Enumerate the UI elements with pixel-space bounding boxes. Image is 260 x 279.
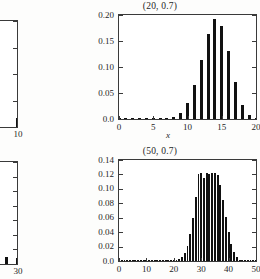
bar [189, 234, 191, 261]
panel-title-bottom-right: (50, 0.7) [68, 146, 252, 156]
bar [239, 260, 241, 261]
bar [148, 260, 150, 261]
y-tick-mark [252, 174, 256, 175]
y-tick-mark [119, 160, 123, 161]
bar [206, 173, 208, 261]
x-tick-label: 40 [214, 265, 244, 274]
bar [198, 174, 200, 261]
bar [213, 19, 216, 119]
bar [211, 173, 213, 261]
y-tick-mark [13, 48, 17, 49]
bar [129, 260, 131, 261]
y-tick-mark [119, 232, 123, 233]
bar [154, 260, 156, 261]
bar [195, 197, 197, 261]
xtick-label-bottom-left-30: 30 [2, 267, 34, 276]
bar [159, 118, 162, 119]
x-tick-mark [229, 258, 230, 262]
x-tick-mark [153, 116, 154, 120]
y-tick-label: 0.04 [78, 228, 114, 237]
plot-area-bottom-right [118, 159, 257, 262]
y-tick-mark [252, 15, 256, 16]
x-tick-mark [119, 116, 120, 120]
panel-bottom-right: (50, 0.7) 0.00.020.040.060.080.100.120.1… [76, 145, 260, 279]
y-tick-mark [13, 220, 17, 221]
bar [241, 105, 244, 119]
bar [140, 260, 142, 261]
panel-top-right: (20, 0.7) 0.00.050.100.150.2005101520 x [76, 0, 260, 140]
bars-bottom-right [119, 160, 256, 261]
y-tick-label: 0.10 [78, 184, 114, 193]
bar [217, 175, 219, 261]
x-tick-label: 0 [104, 265, 134, 274]
y-tick-mark [13, 249, 17, 250]
x-tick-label: 10 [131, 265, 161, 274]
y-tick-label: 0.08 [78, 199, 114, 208]
x-tick-mark [188, 116, 189, 120]
x-tick-label: 20 [241, 123, 260, 132]
y-tick-mark [119, 67, 123, 68]
bar [167, 260, 169, 261]
bar [222, 200, 224, 261]
bar [193, 85, 196, 119]
bar [200, 173, 202, 261]
bar [145, 118, 148, 119]
y-tick-mark [252, 247, 256, 248]
bar [234, 82, 237, 119]
bar [208, 174, 210, 261]
y-tick-mark [119, 15, 123, 16]
y-tick-mark [13, 206, 17, 207]
x-tick-label: 30 [186, 265, 216, 274]
y-tick-mark [252, 67, 256, 68]
y-tick-label: 0.14 [78, 156, 114, 165]
bar [207, 34, 210, 119]
bar [233, 252, 235, 261]
bar [227, 51, 230, 119]
y-tick-label: 0.10 [78, 63, 114, 72]
panel-top-left-clipped: 10 [0, 8, 80, 138]
y-tick-mark [119, 174, 123, 175]
y-tick-label: 0.15 [78, 37, 114, 46]
bar [203, 178, 205, 261]
bars-top-right [119, 15, 256, 119]
y-tick-label: 0.12 [78, 170, 114, 179]
bar [244, 260, 246, 261]
x-tick-mark [174, 258, 175, 262]
bar [200, 60, 203, 119]
y-tick-label: 0.02 [78, 242, 114, 251]
x-tick-mark [17, 261, 18, 265]
y-tick-mark [252, 160, 256, 161]
y-tick-mark [119, 93, 123, 94]
bar [124, 118, 127, 119]
y-tick-label: 0.06 [78, 213, 114, 222]
y-tick-mark [119, 41, 123, 42]
panel-title-top-right: (20, 0.7) [68, 1, 252, 11]
figure-canvas: 10 (20, 0.7) 0.00.050.100.150.2005101520… [0, 0, 260, 279]
bar [184, 253, 186, 261]
bar [143, 260, 145, 261]
y-tick-mark [13, 74, 17, 75]
bar [124, 260, 126, 261]
x-tick-mark [256, 258, 257, 262]
x-tick-label: 50 [241, 265, 260, 274]
bar [176, 260, 178, 261]
y-tick-mark [13, 191, 17, 192]
y-tick-mark [252, 203, 256, 204]
bar [192, 218, 194, 261]
bar [241, 260, 243, 261]
y-tick-mark [13, 21, 17, 22]
bar [156, 260, 158, 261]
y-tick-label: 0.05 [78, 89, 114, 98]
bar [151, 260, 153, 261]
x-tick-mark [17, 124, 18, 128]
y-tick-mark [252, 218, 256, 219]
y-tick-mark [13, 177, 17, 178]
bar [137, 260, 139, 261]
xaxis-name-top-right: x [158, 131, 178, 140]
x-tick-mark [201, 258, 202, 262]
bar [170, 260, 172, 261]
bar [179, 113, 182, 119]
plot-area-top-right [118, 14, 257, 120]
bar [131, 118, 134, 119]
y-tick-mark [119, 189, 123, 190]
